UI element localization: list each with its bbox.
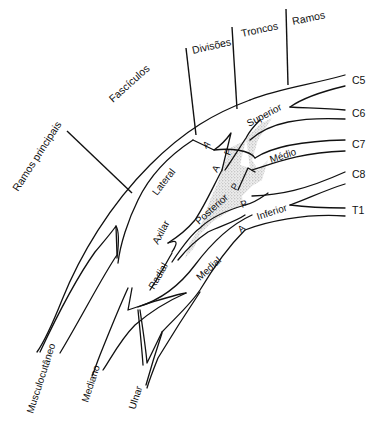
- cord-label-lateral: Lateral: [150, 166, 177, 197]
- root-c7-lower: [252, 151, 345, 170]
- brachial-plexus-diagram: Ramos principais Fascículos Divisões Tro…: [0, 0, 373, 426]
- root-c5-lower: [290, 86, 345, 107]
- posterior-cord-junction: [245, 193, 268, 205]
- divider-troncos: [232, 27, 237, 109]
- root-label-c5: C5: [352, 74, 366, 86]
- branch-label-mediano: Mediano: [79, 363, 101, 403]
- header-ramos: Ramos: [291, 8, 326, 27]
- medial-cord-lower: [162, 230, 245, 332]
- root-label-t1: T1: [352, 204, 364, 216]
- divider-ramos-principais: [67, 131, 132, 193]
- medial-cord-upper: [138, 215, 252, 307]
- root-label-c7: C7: [352, 138, 366, 150]
- header-fasciculos: Fascículos: [106, 62, 151, 104]
- axillary-lower: [168, 241, 176, 252]
- branch-label-ulnar: Ulnar: [126, 384, 144, 411]
- divider-divisoes: [186, 48, 196, 135]
- branch-label-musculocutaneo: Musculocutâneo: [24, 342, 57, 415]
- branch-label-axilar: Axilar: [150, 218, 172, 246]
- header-divisoes: Divisões: [191, 35, 232, 56]
- branch-label-radial: Radial: [146, 261, 170, 291]
- ulnar-outer: [147, 292, 200, 388]
- root-c8-lower: [290, 184, 345, 205]
- divider-ramos: [286, 9, 288, 85]
- root-label-c8: C8: [352, 168, 366, 180]
- musculocutaneous-inner: [40, 226, 117, 353]
- division-label-a-inferior: A: [235, 222, 247, 235]
- trunk-label-medio: Médio: [268, 146, 298, 165]
- root-label-c6: C6: [352, 107, 366, 119]
- root-c8-upper: [252, 172, 345, 196]
- header-ramos-principais: Ramos principais: [10, 119, 64, 193]
- header-troncos: Troncos: [240, 19, 279, 39]
- cord-label-medial: Medial: [194, 255, 223, 283]
- median-left: [92, 288, 128, 376]
- root-t1-upper: [290, 205, 345, 208]
- root-c5-upper: [250, 75, 345, 100]
- division-label-p-inferior: P: [239, 197, 249, 210]
- outer-boundary-lateral: [37, 100, 250, 352]
- root-c6-upper: [290, 107, 345, 110]
